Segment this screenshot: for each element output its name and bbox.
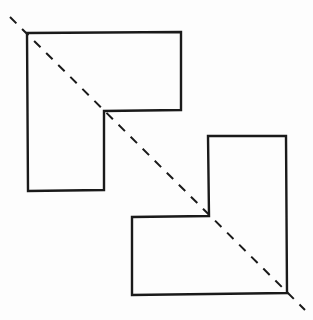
- diagram-canvas: [0, 0, 313, 320]
- figure-svg: [0, 0, 313, 320]
- lower-right-l-shape: [132, 136, 287, 295]
- symmetry-axis-dashed-line: [10, 17, 305, 310]
